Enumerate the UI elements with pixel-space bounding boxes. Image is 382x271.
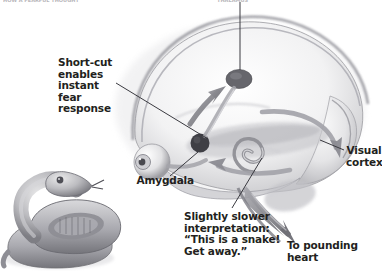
snake-tongue-lower <box>92 187 103 189</box>
label-visual-cortex: Visual cortex <box>346 145 382 168</box>
snake-eye <box>57 177 64 184</box>
snake-head <box>46 172 92 197</box>
label-pounding-heart: To pounding heart <box>287 240 382 263</box>
snake-tongue-upper <box>92 180 104 186</box>
snake-eye-glint <box>58 178 60 180</box>
figure-canvas: HOW A FEARFUL THOUGHT THALAMUS <box>0 0 382 271</box>
label-slower-interpretation: Slightly slower interpretation: “This is… <box>184 211 282 257</box>
thalamus-highlight <box>230 72 242 79</box>
label-shortcut: Short-cut enables instant fear response <box>58 57 120 115</box>
label-amygdala: Amygdala <box>112 175 194 187</box>
amygdala-highlight <box>194 137 201 144</box>
eye-highlight <box>139 158 141 160</box>
snake-group <box>2 172 121 269</box>
brain-group <box>115 17 368 242</box>
